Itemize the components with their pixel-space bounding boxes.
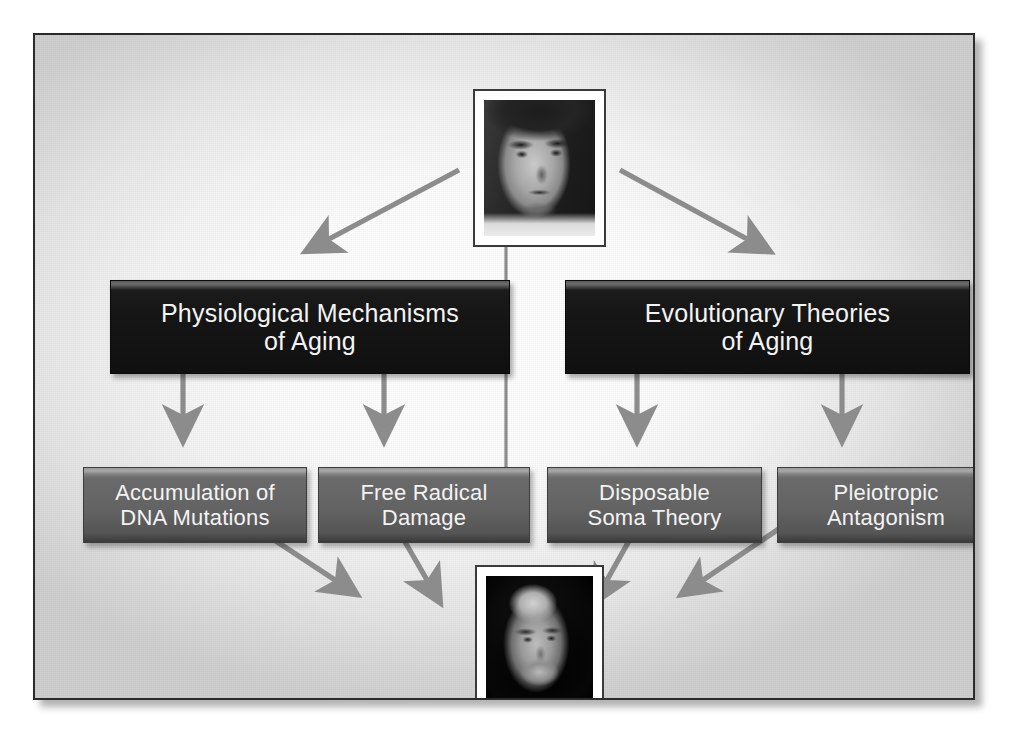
portrait-old-render: [486, 576, 593, 700]
photo-old-image: [486, 576, 593, 700]
photo-old-portrait: [475, 565, 604, 700]
diagram-panel: Physiological Mechanisms of Aging Evolut…: [33, 33, 975, 700]
figure-root: Physiological Mechanisms of Aging Evolut…: [0, 0, 1019, 735]
photo-layer: [35, 35, 973, 698]
photo-young-image: [484, 100, 595, 236]
caption-strip: [33, 706, 975, 732]
portrait-young-render: [484, 100, 595, 236]
photo-young-portrait: [473, 89, 606, 247]
